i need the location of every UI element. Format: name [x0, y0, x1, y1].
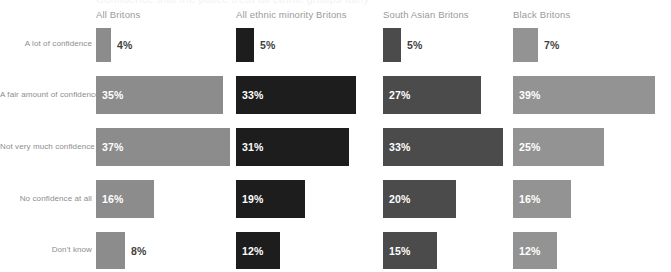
bar-value-label: 15% [389, 246, 411, 257]
row-label: A fair amount of confidence [0, 90, 92, 100]
row-label: No confidence at all [0, 194, 92, 204]
bar [383, 28, 401, 62]
bar-value-label: 16% [102, 194, 124, 205]
bar-value-label: 33% [242, 90, 264, 101]
bar-value-label: 19% [242, 194, 264, 205]
bar: 33% [383, 128, 503, 166]
bar: 19% [236, 180, 305, 218]
bar: 27% [383, 76, 481, 114]
bar-value-label: 39% [519, 90, 541, 101]
row-label: Not very much confidence [0, 142, 92, 152]
grouped-bar-chart: Confidence that the police treat all eth… [0, 0, 671, 272]
bar [96, 232, 125, 269]
column-header: All ethnic minority Britons [236, 9, 347, 21]
bar-value-label: 12% [519, 246, 541, 257]
bar: 37% [96, 128, 230, 166]
bar-value-label: 20% [389, 194, 411, 205]
bar: 20% [383, 180, 456, 218]
bar-value-label: 12% [242, 246, 264, 257]
bar-value-label: 33% [389, 142, 411, 153]
bar [513, 28, 538, 62]
row-label: A lot of confidence [0, 39, 92, 49]
column-header: All Britons [96, 9, 140, 21]
bar-value-label: 4% [117, 40, 133, 51]
bar: 31% [236, 128, 349, 166]
bar-value-label: 37% [102, 142, 124, 153]
chart-title: Confidence that the police treat all eth… [96, 0, 369, 5]
bar-value-label: 31% [242, 142, 264, 153]
bar: 15% [383, 232, 437, 269]
bar-value-label: 35% [102, 90, 124, 101]
bar-value-label: 16% [519, 194, 541, 205]
bar [236, 28, 254, 62]
bar-value-label: 25% [519, 142, 541, 153]
bar: 16% [96, 180, 154, 218]
bar: 12% [513, 232, 557, 269]
clipped-title-strip: Confidence that the police treat all eth… [0, 0, 671, 9]
bar: 35% [96, 76, 223, 114]
row-label: Don't know [0, 245, 92, 255]
column-header: Black Britons [513, 9, 570, 21]
bar-value-label: 27% [389, 90, 411, 101]
bar: 25% [513, 128, 604, 166]
bar: 39% [513, 76, 655, 114]
bar-value-label: 8% [131, 246, 147, 257]
bar [96, 28, 111, 62]
bar-value-label: 5% [407, 40, 423, 51]
bar: 16% [513, 180, 571, 218]
bar-value-label: 7% [544, 40, 560, 51]
column-header: South Asian Britons [383, 9, 469, 21]
bar: 12% [236, 232, 280, 269]
bar-value-label: 5% [260, 40, 276, 51]
bar: 33% [236, 76, 356, 114]
